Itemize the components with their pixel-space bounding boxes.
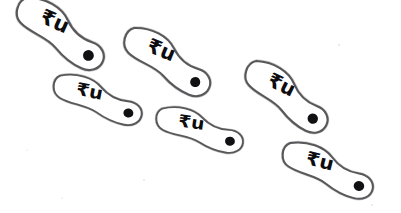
paddle-shape: ₹u	[153, 104, 247, 154]
image-canvas: ₹u ₹u ₹u ₹u	[0, 0, 401, 213]
paddle-shape: ₹u	[49, 71, 147, 128]
figure-illustration: ₹u ₹u ₹u ₹u	[0, 0, 401, 213]
paddle-shape: ₹u	[234, 55, 340, 138]
paddle-shape: ₹u	[114, 22, 221, 101]
paddle-shape: ₹u	[276, 138, 379, 202]
shapes-group: ₹u ₹u ₹u ₹u	[6, 0, 380, 202]
paddle-shape: ₹u	[6, 0, 116, 75]
shape-glyph: ₹u	[177, 110, 206, 133]
